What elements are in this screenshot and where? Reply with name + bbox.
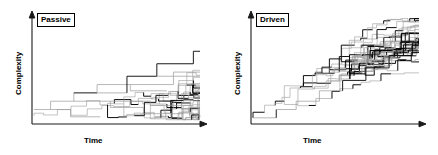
y-axis-arrowhead — [248, 11, 254, 18]
tree-branches-passive — [34, 51, 200, 119]
x-axis-arrowhead — [200, 121, 207, 127]
x-axis-label-passive: Time — [84, 136, 103, 145]
y-axis-label-driven: Complexity — [233, 52, 242, 95]
panel-passive: Passive Time Complexity — [0, 0, 219, 155]
x-axis-arrowhead — [419, 121, 426, 127]
panel-passive-plot — [0, 0, 219, 155]
axes-driven — [248, 11, 426, 127]
panel-label-driven: Driven — [256, 13, 289, 27]
panel-driven-plot — [219, 0, 438, 155]
y-axis-arrowhead — [29, 11, 35, 18]
panel-driven: Driven Time Complexity — [219, 0, 438, 155]
figure-root: Passive Time Complexity Driven Time Comp… — [0, 0, 438, 155]
tree-branches-driven — [253, 18, 419, 117]
panel-label-passive: Passive — [37, 13, 75, 27]
x-axis-label-driven: Time — [303, 136, 322, 145]
y-axis-label-passive: Complexity — [14, 52, 23, 95]
